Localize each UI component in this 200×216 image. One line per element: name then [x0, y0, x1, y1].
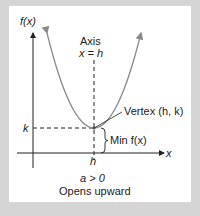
h-label: h — [90, 156, 96, 167]
axis-equation: x = h — [79, 48, 103, 59]
k-label: k — [23, 123, 29, 134]
vertex-leader — [94, 112, 122, 128]
y-axis-label: f(x) — [20, 16, 36, 27]
vertex-label: Vertex (h, k) — [124, 106, 183, 117]
axis-title: Axis — [80, 36, 101, 47]
min-label: Min f(x) — [110, 135, 147, 146]
min-brace — [101, 128, 108, 153]
x-axis-label: x — [166, 148, 172, 159]
condition-label: a > 0 — [80, 173, 105, 184]
caption: Opens upward — [59, 186, 131, 197]
